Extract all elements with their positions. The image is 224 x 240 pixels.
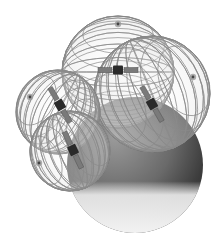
- pole-center: [117, 23, 120, 26]
- solar-panel-left: [98, 68, 112, 73]
- pole-center: [38, 162, 41, 165]
- pole-center: [192, 76, 195, 79]
- solar-panel-right: [124, 68, 138, 73]
- satellite-coverage-illustration: [0, 0, 224, 240]
- pole-center: [29, 96, 32, 99]
- satellite-body: [113, 66, 123, 75]
